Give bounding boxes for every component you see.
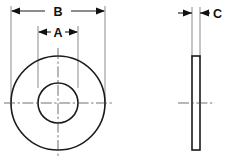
extension-lines-group (11, 6, 200, 105)
engineering-drawing-canvas: B A C (0, 0, 228, 162)
arrow-head-a-right (69, 29, 78, 36)
dimension-label-a: A (53, 26, 62, 40)
side-view (178, 56, 215, 150)
arrow-head-c-left (183, 10, 192, 17)
arrow-head-a-left (38, 29, 47, 36)
front-view (4, 48, 112, 158)
washer-technical-drawing: B A C (0, 0, 228, 162)
dimension-a: A (38, 26, 78, 40)
arrow-head-c-right (200, 10, 209, 17)
dimension-b: B (11, 5, 105, 19)
arrow-head-b-left (11, 8, 20, 15)
dimension-label-b: B (53, 5, 62, 19)
arrow-head-b-right (96, 8, 105, 15)
dimension-label-c: C (213, 7, 222, 21)
